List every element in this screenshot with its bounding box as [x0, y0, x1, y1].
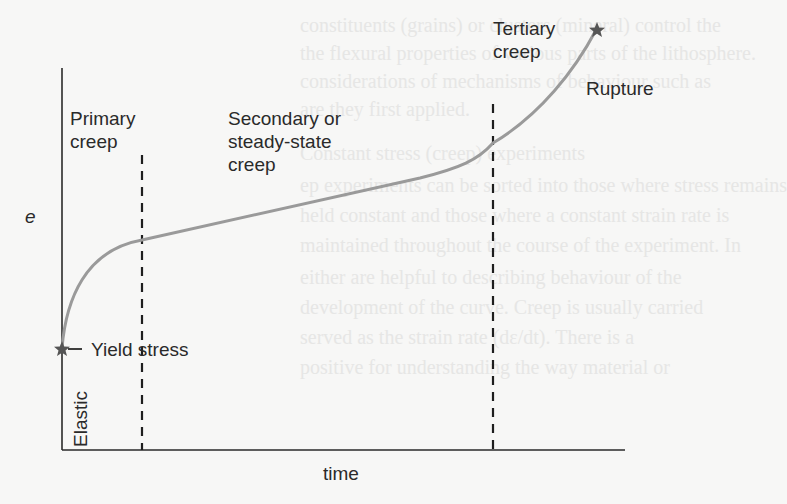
- secondary-label-line3: creep: [228, 153, 341, 176]
- elastic-label: Elastic: [70, 391, 92, 447]
- rupture-label: Rupture: [586, 77, 654, 100]
- yield-stress-label: Yield stress: [91, 338, 189, 361]
- x-axis-label: time: [323, 462, 359, 485]
- secondary-label-line1: Secondary or: [228, 107, 341, 130]
- tertiary-creep-label: Tertiary creep: [493, 17, 555, 63]
- primary-label-line1: Primary: [70, 107, 135, 130]
- primary-creep-label: Primary creep: [70, 107, 135, 153]
- primary-label-line2: creep: [70, 130, 135, 153]
- rupture-star-icon: [589, 22, 605, 37]
- y-axis-label: e: [25, 205, 36, 228]
- secondary-label-line2: steady-state: [228, 130, 341, 153]
- tertiary-label-line2: creep: [493, 40, 555, 63]
- tertiary-label-line1: Tertiary: [493, 17, 555, 40]
- secondary-creep-label: Secondary or steady-state creep: [228, 107, 341, 176]
